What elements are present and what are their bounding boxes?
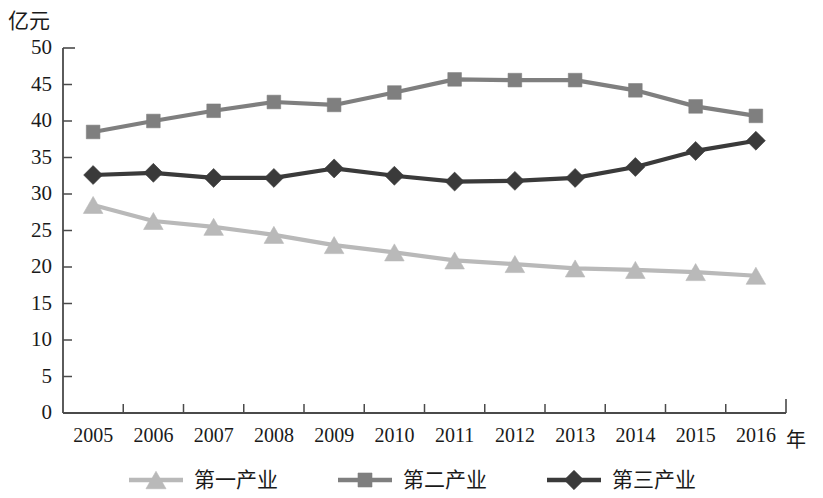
legend-label: 第三产业: [612, 469, 696, 491]
data-point-marker: [445, 172, 464, 191]
chart-container: 亿元 年 05101520253035404550 20052006200720…: [0, 0, 823, 498]
data-point-marker: [448, 73, 462, 87]
legend-marker-diamond-icon: [545, 468, 603, 492]
data-point-marker: [629, 84, 643, 98]
data-point-marker: [388, 86, 402, 100]
data-point-marker: [84, 166, 103, 185]
data-point-marker: [568, 73, 582, 87]
data-point-marker: [385, 166, 404, 185]
chart-legend: 第一产业第二产业第三产业: [0, 462, 823, 498]
data-point-marker: [746, 131, 765, 150]
legend-label: 第一产业: [194, 469, 278, 491]
legend-marker-square-icon: [336, 468, 394, 492]
legend-item[interactable]: 第一产业: [127, 468, 278, 492]
data-point-marker: [327, 98, 341, 112]
legend-item[interactable]: 第二产业: [336, 468, 487, 492]
data-point-marker: [144, 163, 163, 182]
data-point-marker: [86, 125, 100, 139]
data-point-marker: [325, 159, 344, 178]
legend-item[interactable]: 第三产业: [545, 468, 696, 492]
plot-area: [0, 0, 823, 498]
series-1: [83, 196, 765, 284]
data-point-marker: [566, 168, 585, 187]
data-point-marker: [686, 141, 705, 160]
data-point-marker: [505, 171, 524, 190]
legend-marker: [564, 470, 583, 489]
series-line: [93, 141, 756, 182]
data-point-marker: [749, 109, 763, 123]
data-point-marker: [264, 168, 283, 187]
data-point-marker: [207, 104, 221, 118]
series-2: [86, 73, 762, 139]
legend-marker: [358, 473, 372, 487]
legend-label: 第二产业: [403, 469, 487, 491]
series-line: [93, 79, 756, 132]
data-point-marker: [204, 168, 223, 187]
series-line: [93, 205, 756, 276]
data-point-marker: [267, 95, 281, 109]
data-point-marker: [626, 158, 645, 177]
series-3: [84, 131, 766, 191]
data-point-marker: [689, 100, 703, 114]
data-point-marker: [147, 114, 161, 128]
data-point-marker: [508, 73, 522, 87]
legend-marker-triangle-icon: [127, 468, 185, 492]
